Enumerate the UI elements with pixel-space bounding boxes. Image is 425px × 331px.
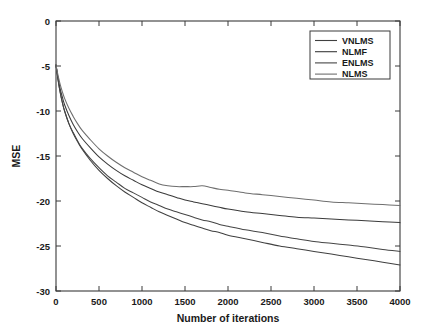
y-tick-label: 0: [45, 16, 50, 27]
x-tick-label: 1000: [131, 296, 152, 307]
x-axis-title: Number of iterations: [177, 312, 280, 324]
legend-label-nlms: NLMS: [342, 69, 368, 79]
chart-legend[interactable]: VNLMSNLMFENLMSNLMS: [310, 31, 390, 79]
x-tick-label: 2000: [217, 296, 238, 307]
x-tick-label: 3000: [303, 296, 324, 307]
y-tick-label: -5: [42, 61, 51, 72]
x-tick-label: 2500: [260, 296, 281, 307]
y-tick-label: -20: [36, 196, 50, 207]
y-tick-label: -30: [36, 286, 50, 297]
legend-label-enlms: ENLMS: [342, 58, 374, 68]
x-axis-tick-labels: 05001000150020002500300035004000: [53, 296, 410, 307]
y-tick-label: -10: [36, 106, 50, 117]
legend-label-nlmf: NLMF: [342, 47, 367, 57]
chart-figure: 0-5-10-15-20-25-30 050010001500200025003…: [0, 0, 425, 331]
x-tick-label: 1500: [174, 296, 195, 307]
y-tick-label: -15: [36, 151, 50, 162]
x-tick-label: 3500: [346, 296, 367, 307]
x-tick-label: 500: [91, 296, 107, 307]
x-tick-label: 4000: [389, 296, 410, 307]
mse-convergence-chart: 0-5-10-15-20-25-30 050010001500200025003…: [0, 0, 425, 331]
y-axis-title: MSE: [10, 145, 22, 168]
y-tick-label: -25: [36, 241, 50, 252]
legend-label-vnlms: VNLMS: [342, 36, 374, 46]
x-tick-label: 0: [53, 296, 58, 307]
